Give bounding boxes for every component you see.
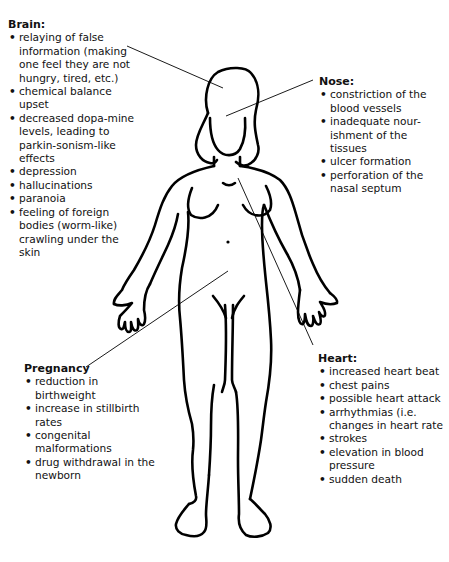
heart-heading: Heart: xyxy=(318,352,446,365)
list-item: arrhythmias (i.e. changes in heart rate xyxy=(318,406,446,433)
list-item: increased heart beat xyxy=(318,365,446,378)
list-item: feeling of foreign bodies (worm-like) cr… xyxy=(8,206,138,260)
nose-heading: Nose: xyxy=(319,75,447,88)
pregnancy-effects-list: reduction in birthweight increase in sti… xyxy=(24,375,159,482)
brain-effects-block: Brain: relaying of false information (ma… xyxy=(8,18,138,259)
list-item: ulcer formation xyxy=(319,155,447,168)
list-item: increase in stillbirth rates xyxy=(24,402,159,429)
list-item: chest pains xyxy=(318,379,446,392)
list-item: chemical balance upset xyxy=(8,85,138,112)
brain-pointer-line xyxy=(127,46,223,88)
list-item: sudden death xyxy=(318,473,446,486)
list-item: congenital malformations xyxy=(24,429,159,456)
pregnancy-pointer-line xyxy=(86,271,228,367)
list-item: strokes xyxy=(318,432,446,445)
heart-effects-list: increased heart beat chest pains possibl… xyxy=(318,365,446,486)
nose-effects-block: Nose: constriction of the blood vessels … xyxy=(319,75,447,196)
brain-heading: Brain: xyxy=(8,18,138,31)
list-item: decreased dopa-mine levels, leading to p… xyxy=(8,112,138,166)
brain-effects-list: relaying of false information (making on… xyxy=(8,31,138,259)
list-item: relaying of false information (making on… xyxy=(8,31,138,85)
list-item: possible heart attack xyxy=(318,392,446,405)
list-item: paranoia xyxy=(8,192,138,205)
list-item: inadequate nour-ishment of the tissues xyxy=(319,115,447,155)
pregnancy-effects-block: Pregnancy reduction in birthweight incre… xyxy=(24,362,159,483)
nose-effects-list: constriction of the blood vessels inadeq… xyxy=(319,88,447,195)
list-item: perforation of the nasal septum xyxy=(319,169,447,196)
list-item: constriction of the blood vessels xyxy=(319,88,447,115)
heart-pointer-line xyxy=(238,178,313,345)
navel-dot xyxy=(226,240,229,243)
list-item: elevation in blood pressure xyxy=(318,446,446,473)
pregnancy-heading: Pregnancy xyxy=(24,362,159,375)
list-item: drug withdrawal in the newborn xyxy=(24,456,159,483)
nose-pointer-line xyxy=(226,80,313,116)
list-item: depression xyxy=(8,165,138,178)
list-item: hallucinations xyxy=(8,179,138,192)
list-item: reduction in birthweight xyxy=(24,375,159,402)
heart-effects-block: Heart: increased heart beat chest pains … xyxy=(318,352,446,486)
